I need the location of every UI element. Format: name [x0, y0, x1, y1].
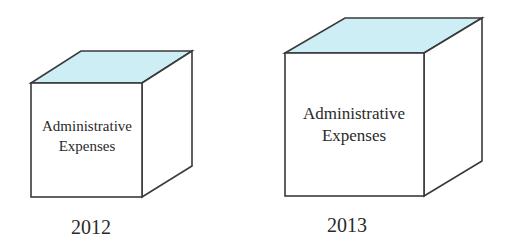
- cube-2013-label-line2: Expenses: [322, 126, 386, 145]
- cube-2012-label-line1: Administrative: [42, 118, 132, 134]
- cube-comparison-diagram: Administrative Expenses 2012 Administrat…: [0, 0, 506, 248]
- cube-2012-label-line2: Expenses: [59, 138, 116, 154]
- cube-2013-label-line1: Administrative: [303, 104, 405, 123]
- cube-2013: Administrative Expenses: [285, 18, 482, 196]
- cube-2012: Administrative Expenses: [31, 51, 192, 197]
- year-label-2012: 2012: [71, 216, 111, 238]
- cube-2013-front-face: [285, 53, 424, 196]
- year-label-2013: 2013: [327, 214, 367, 236]
